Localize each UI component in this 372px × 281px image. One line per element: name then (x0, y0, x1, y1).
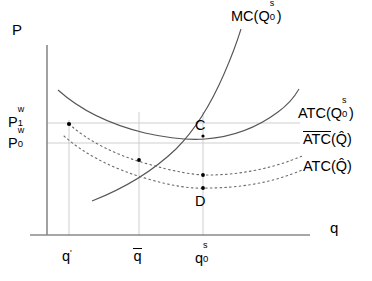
dot-point-d (201, 186, 205, 190)
horizontal-gridlines (47, 123, 300, 143)
x-tick-qprime: q' (62, 248, 72, 263)
y-tick-p1w-base: P (8, 114, 18, 130)
curve-label-atc-q0s: ATC(Qs0) (298, 103, 354, 120)
curve-label-mc-sup: s (270, 0, 275, 8)
y-tick-p0w: Pw0 (8, 133, 25, 150)
x-axis-label: q (330, 220, 338, 235)
curve-atc-q0s (58, 89, 299, 139)
x-tick-qprime-prime: ' (70, 248, 72, 258)
x-tick-q0s-sub: 0 (203, 254, 208, 264)
point-label-c: C (195, 118, 205, 133)
curve-atc-qhat (64, 136, 302, 188)
curve-mc (92, 29, 241, 201)
dot-q0s-atcbar (201, 173, 205, 177)
x-tick-q0s: qs0 (195, 248, 210, 265)
y-tick-p0w-sub: 0 (18, 139, 23, 149)
y-tick-p1w-sup: w (18, 105, 25, 114)
y-tick-p0w-sup: w (18, 126, 25, 135)
curve-label-mc-sub: 0 (270, 12, 275, 22)
curve-label-mc-base: MC(Q (231, 8, 270, 24)
curve-label-atc-q0s-marks: s0 (342, 103, 349, 118)
curve-label-mc: MC(Qs0) (231, 6, 282, 23)
x-tick-q0s-marks: s0 (203, 248, 210, 263)
x-tick-q0s-sup: s (203, 241, 208, 250)
curve-label-mc-marks: s0 (270, 6, 277, 21)
curve-label-atc-bar-qhat-overlined: ATC (303, 131, 331, 147)
y-tick-p0w-base: P (8, 135, 18, 151)
point-label-d: D (195, 194, 205, 209)
curve-label-atc-q0s-close: ) (349, 105, 354, 121)
cost-curve-figure: P q Pw1 Pw0 q' q qs0 MC(Qs0) ATC(Qs0) AT… (0, 0, 372, 281)
y-tick-p0w-marks: w0 (18, 133, 25, 148)
y-axis-label: P (12, 22, 22, 37)
x-tick-q0s-base: q (195, 250, 203, 266)
dot-qprime-atcbar (67, 122, 71, 126)
curve-label-atc-qhat: ATC(Q̂) (303, 159, 352, 174)
curve-atc-bar-qhat (69, 124, 302, 175)
dot-point-c (201, 134, 204, 137)
x-tick-qprime-base: q (62, 248, 70, 264)
curve-label-atc-bar-qhat-rest: (Q̂) (331, 131, 352, 147)
curve-label-atc-q0s-base: ATC(Q (298, 105, 342, 121)
curve-label-atc-q0s-sup: s (342, 96, 347, 105)
x-tick-qbar-base: q (133, 248, 142, 264)
x-tick-qbar: q (133, 248, 142, 264)
curve-label-atc-bar-qhat: ATC(Q̂) (303, 131, 352, 147)
curve-label-mc-close: ) (277, 8, 282, 24)
dot-qbar-atcbar (137, 158, 141, 162)
curve-label-atc-q0s-sub: 0 (342, 109, 347, 119)
